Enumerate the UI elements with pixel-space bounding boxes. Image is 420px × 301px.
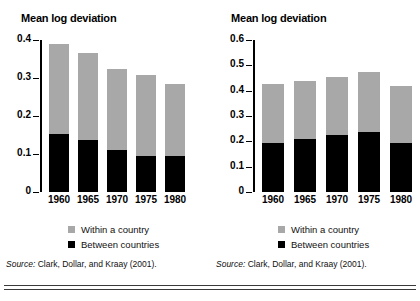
bar-segment-between-countries bbox=[390, 143, 412, 192]
y-axis-tick-mark bbox=[246, 40, 252, 41]
legend-item-between-right: Between countries bbox=[278, 237, 369, 252]
legend-right: Within a country Between countries bbox=[278, 222, 369, 252]
bar-stack bbox=[49, 44, 69, 192]
y-axis-tick-label: 0 bbox=[238, 185, 244, 196]
bar-segment-between-countries bbox=[326, 135, 348, 192]
y-axis-tick-label: 0.3 bbox=[17, 71, 31, 82]
x-axis-labels-right: 19601965197019751980 bbox=[258, 194, 420, 208]
x-axis-label: 1970 bbox=[323, 194, 351, 205]
x-axis-label: 1965 bbox=[291, 194, 319, 205]
bar-stack bbox=[262, 84, 284, 192]
y-axis-tick-mark bbox=[33, 192, 39, 193]
bar-stack bbox=[78, 53, 98, 192]
bar-segment-between-countries bbox=[49, 134, 69, 192]
y-axis-line bbox=[40, 40, 42, 192]
x-axis-label: 1960 bbox=[259, 194, 287, 205]
bar-segment-between-countries bbox=[107, 150, 127, 192]
y-axis-tick-mark bbox=[246, 141, 252, 142]
x-axis-labels-left: 19601965197019751980 bbox=[45, 194, 195, 208]
bar-stack bbox=[358, 72, 380, 192]
y-axis-tick-label: 0.2 bbox=[230, 134, 244, 145]
y-axis-tick-mark bbox=[33, 40, 39, 41]
y-axis-tick-mark bbox=[33, 154, 39, 155]
y-axis-tick-mark bbox=[33, 78, 39, 79]
x-axis-label: 1980 bbox=[162, 194, 188, 205]
y-axis-tick-label: 0.4 bbox=[230, 84, 244, 95]
bottom-divider bbox=[4, 285, 416, 290]
bar-segment-between-countries bbox=[262, 143, 284, 192]
bar-stack bbox=[107, 69, 127, 192]
x-axis-label: 1960 bbox=[46, 194, 72, 205]
x-axis-label: 1965 bbox=[75, 194, 101, 205]
x-axis-label: 1980 bbox=[387, 194, 415, 205]
y-axis-tick-label: 0.1 bbox=[230, 160, 244, 171]
legend-item-within-right: Within a country bbox=[278, 222, 369, 237]
legend-label-within: Within a country bbox=[81, 224, 149, 235]
bar-segment-between-countries bbox=[136, 156, 156, 192]
source-prefix-right: Source: bbox=[216, 259, 245, 269]
y-axis-tick-label: 0.2 bbox=[17, 109, 31, 120]
source-prefix: Source: bbox=[6, 259, 35, 269]
y-axis-tick-label: 0.3 bbox=[230, 109, 244, 120]
bar-stack bbox=[294, 81, 316, 192]
chart-panel-left: Mean log deviation 00.10.20.30.4 1960196… bbox=[0, 0, 210, 301]
legend-swatch-between-icon bbox=[68, 241, 75, 248]
source-note-right: Source: Clark, Dollar, and Kraay (2001). bbox=[216, 259, 367, 269]
legend-item-between: Between countries bbox=[68, 237, 159, 252]
legend-item-within: Within a country bbox=[68, 222, 159, 237]
chart-panel-right: Mean log deviation 00.10.20.30.40.50.6 1… bbox=[210, 0, 420, 301]
source-text: Clark, Dollar, and Kraay (2001). bbox=[35, 259, 156, 269]
legend-swatch-within-icon bbox=[278, 226, 285, 233]
plot-area-right: 00.10.20.30.40.50.6 bbox=[258, 40, 420, 192]
legend-swatch-within-icon bbox=[68, 226, 75, 233]
y-axis-tick-label: 0.6 bbox=[230, 33, 244, 44]
y-axis-tick-mark bbox=[246, 192, 252, 193]
y-axis-tick-label: 0.5 bbox=[230, 58, 244, 69]
bar-segment-between-countries bbox=[294, 139, 316, 192]
legend-swatch-between-icon bbox=[278, 241, 285, 248]
bar-stack bbox=[390, 86, 412, 192]
y-axis-tick-mark bbox=[33, 116, 39, 117]
legend-label-between: Between countries bbox=[81, 239, 159, 250]
x-axis-label: 1970 bbox=[104, 194, 130, 205]
source-note-left: Source: Clark, Dollar, and Kraay (2001). bbox=[6, 259, 157, 269]
bar-stack bbox=[326, 77, 348, 192]
bar-segment-between-countries bbox=[165, 156, 185, 192]
page-title: Mean log deviation bbox=[21, 12, 116, 24]
y-axis-tick-label: 0.4 bbox=[17, 33, 31, 44]
y-axis-tick-mark bbox=[246, 65, 252, 66]
plot-area-left: 00.10.20.30.4 bbox=[45, 40, 195, 192]
y-axis-tick-mark bbox=[246, 91, 252, 92]
y-axis-tick-mark bbox=[246, 167, 252, 168]
bar-stack bbox=[136, 75, 156, 192]
x-axis-label: 1975 bbox=[133, 194, 159, 205]
bar-segment-between-countries bbox=[78, 140, 98, 192]
x-axis-label: 1975 bbox=[355, 194, 383, 205]
y-axis-tick-label: 0.1 bbox=[17, 147, 31, 158]
y-axis-tick-mark bbox=[246, 116, 252, 117]
page-title-right: Mean log deviation bbox=[231, 12, 326, 24]
legend-left: Within a country Between countries bbox=[68, 222, 159, 252]
y-axis-line-right bbox=[253, 40, 255, 192]
legend-label-between-right: Between countries bbox=[291, 239, 369, 250]
bar-stack bbox=[165, 84, 185, 192]
legend-label-within-right: Within a country bbox=[291, 224, 359, 235]
source-text-right: Clark, Dollar, and Kraay (2001). bbox=[245, 259, 366, 269]
y-axis-tick-label: 0 bbox=[25, 185, 31, 196]
bar-segment-between-countries bbox=[358, 132, 380, 192]
